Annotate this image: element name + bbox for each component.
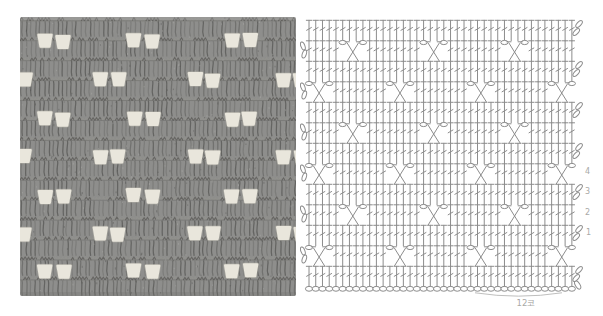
swatch-photo <box>20 17 296 296</box>
stitch-chart <box>300 8 603 316</box>
crochet-pattern-page: 4 3 2 1 12코 <box>0 0 603 316</box>
repeat-width-label: 12코 <box>506 296 546 308</box>
row-number-label-2: 2 <box>585 208 590 217</box>
swatch-photo-image <box>20 17 296 296</box>
row-number-label-3: 3 <box>585 187 590 196</box>
stitch-chart-drawing <box>300 8 603 316</box>
row-number-label-4: 4 <box>585 167 590 176</box>
row-number-label-1: 1 <box>586 228 591 237</box>
